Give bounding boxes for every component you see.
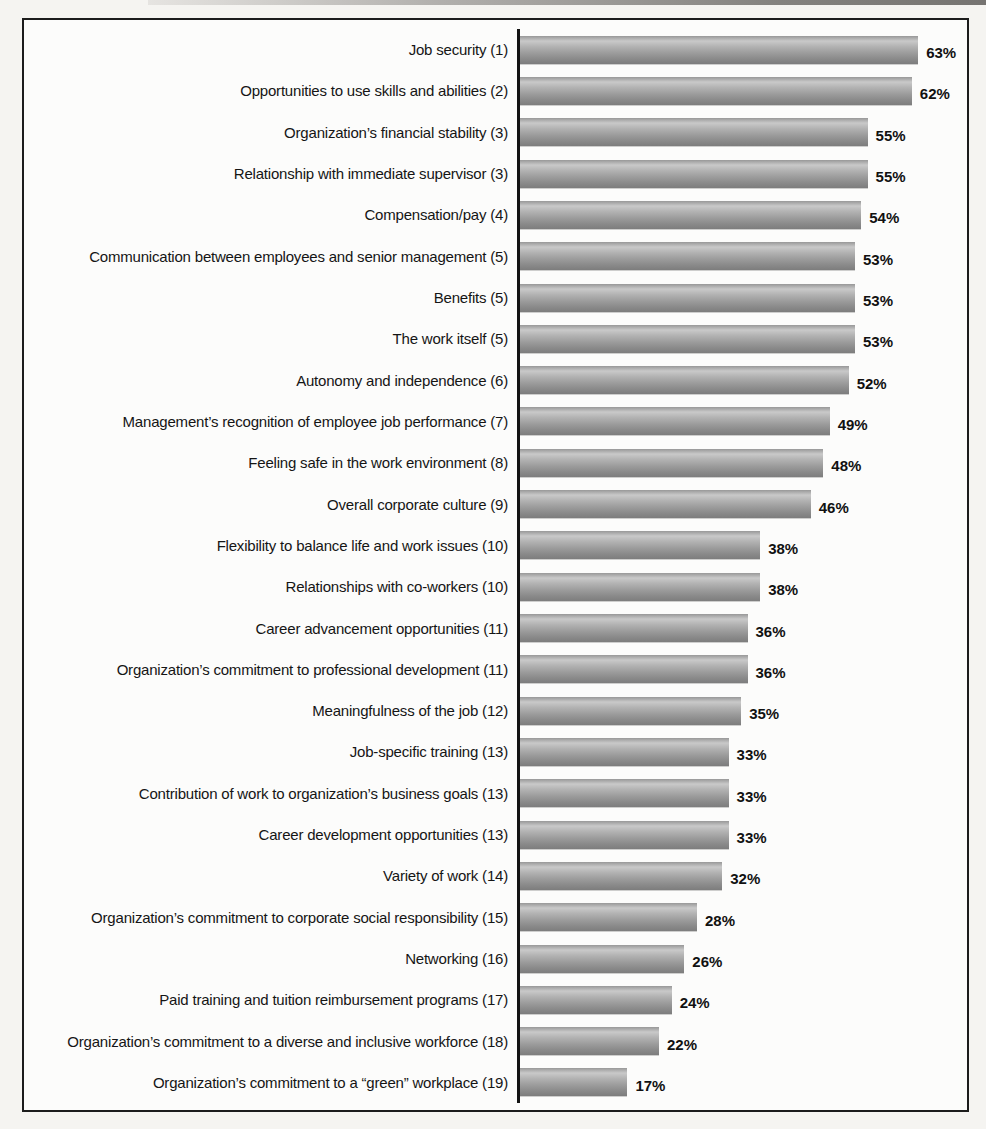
category-label: Variety of work (14): [24, 855, 517, 896]
category-label-text: Communication between employees and seni…: [89, 248, 508, 265]
bar: [520, 160, 868, 188]
bar-zone: 36%: [517, 607, 967, 648]
category-label-text: Organization’s financial stability (3): [284, 124, 508, 141]
value-label: 17%: [635, 1077, 665, 1094]
scan-artifact-strip: [148, 0, 986, 5]
bar-zone: 46%: [517, 483, 967, 524]
bar-zone: 55%: [517, 153, 967, 194]
category-label: Overall corporate culture (9): [24, 483, 517, 524]
category-label: Flexibility to balance life and work iss…: [24, 525, 517, 566]
bar-zone: 62%: [517, 70, 967, 111]
bar: [520, 118, 868, 146]
category-label: Organization’s commitment to corporate s…: [24, 897, 517, 938]
category-label-text: Organization’s commitment to corporate s…: [91, 909, 508, 926]
bar-row: Organization’s commitment to corporate s…: [24, 897, 967, 938]
category-label: Networking (16): [24, 938, 517, 979]
bar: [520, 862, 722, 890]
value-label: 36%: [756, 623, 786, 640]
bar-zone: 24%: [517, 979, 967, 1020]
value-label: 53%: [863, 333, 893, 350]
value-label: 33%: [737, 829, 767, 846]
value-label: 62%: [920, 85, 950, 102]
category-label-text: Career advancement opportunities (11): [256, 620, 508, 637]
bar-row: Paid training and tuition reimbursement …: [24, 979, 967, 1020]
bar-zone: 22%: [517, 1021, 967, 1062]
category-label: Organization’s commitment to a “green” w…: [24, 1062, 517, 1103]
value-label: 35%: [749, 705, 779, 722]
value-label: 55%: [876, 127, 906, 144]
bar-zone: 36%: [517, 649, 967, 690]
value-label: 38%: [768, 540, 798, 557]
category-label-text: Job security (1): [409, 41, 508, 58]
bar: [520, 697, 741, 725]
bar: [520, 449, 823, 477]
category-label-text: Benefits (5): [434, 289, 508, 306]
category-label-text: Job-specific training (13): [350, 743, 508, 760]
value-label: 22%: [667, 1036, 697, 1053]
bar-zone: 55%: [517, 112, 967, 153]
bar-zone: 54%: [517, 194, 967, 235]
category-label-text: Management’s recognition of employee job…: [123, 413, 508, 430]
bar-zone: 38%: [517, 566, 967, 607]
value-label: 26%: [692, 953, 722, 970]
bar: [520, 986, 672, 1014]
bar-zone: 33%: [517, 773, 967, 814]
value-label: 49%: [838, 416, 868, 433]
category-label: Compensation/pay (4): [24, 194, 517, 235]
bar: [520, 531, 760, 559]
category-label: Contribution of work to organization’s b…: [24, 773, 517, 814]
category-label-text: Autonomy and independence (6): [296, 372, 508, 389]
category-label-text: Compensation/pay (4): [364, 206, 508, 223]
bar-zone: 53%: [517, 236, 967, 277]
bar: [520, 614, 748, 642]
category-label: Relationship with immediate supervisor (…: [24, 153, 517, 194]
category-label-text: Feeling safe in the work environment (8): [248, 454, 508, 471]
bar-zone: 53%: [517, 277, 967, 318]
value-label: 38%: [768, 581, 798, 598]
category-label-text: Relationships with co-workers (10): [286, 578, 508, 595]
bar-row: Management’s recognition of employee job…: [24, 401, 967, 442]
category-label-text: Contribution of work to organization’s b…: [139, 785, 508, 802]
bar-zone: 17%: [517, 1062, 967, 1103]
bar-row: Job security (1) 63%: [24, 29, 967, 70]
category-label-text: Paid training and tuition reimbursement …: [159, 991, 508, 1008]
category-label: Opportunities to use skills and abilitie…: [24, 70, 517, 111]
bar-row: Benefits (5) 53%: [24, 277, 967, 318]
value-label: 63%: [926, 44, 956, 61]
category-label: Paid training and tuition reimbursement …: [24, 979, 517, 1020]
bar: [520, 36, 918, 64]
category-label-text: Networking (16): [405, 950, 508, 967]
category-label: Benefits (5): [24, 277, 517, 318]
bar-row: Compensation/pay (4) 54%: [24, 194, 967, 235]
category-label: Autonomy and independence (6): [24, 360, 517, 401]
bar-zone: 63%: [517, 29, 967, 70]
category-label-text: Flexibility to balance life and work iss…: [217, 537, 508, 554]
bar-row: Career development opportunities (13) 33…: [24, 814, 967, 855]
category-label: Career development opportunities (13): [24, 814, 517, 855]
category-label-text: Relationship with immediate supervisor (…: [234, 165, 508, 182]
bar-zone: 53%: [517, 318, 967, 359]
bar: [520, 821, 729, 849]
bar: [520, 201, 861, 229]
bar-row: Autonomy and independence (6) 52%: [24, 360, 967, 401]
value-label: 55%: [876, 168, 906, 185]
value-label: 52%: [857, 375, 887, 392]
value-label: 33%: [737, 788, 767, 805]
bar-row: Meaningfulness of the job (12) 35%: [24, 690, 967, 731]
bar-row: Job-specific training (13) 33%: [24, 731, 967, 772]
bar: [520, 1027, 659, 1055]
bar-row: Flexibility to balance life and work iss…: [24, 525, 967, 566]
bar-chart: Job security (1) 63% Opportunities to us…: [24, 29, 967, 1103]
bar: [520, 490, 811, 518]
bar-row: The work itself (5) 53%: [24, 318, 967, 359]
value-label: 54%: [869, 209, 899, 226]
value-label: 28%: [705, 912, 735, 929]
category-label-text: Opportunities to use skills and abilitie…: [240, 82, 508, 99]
category-label-text: Meaningfulness of the job (12): [312, 702, 508, 719]
value-label: 32%: [730, 870, 760, 887]
category-label-text: Organization’s commitment to professiona…: [117, 661, 508, 678]
bar: [520, 655, 748, 683]
bar: [520, 407, 830, 435]
category-label: Job-specific training (13): [24, 731, 517, 772]
bar-row: Contribution of work to organization’s b…: [24, 773, 967, 814]
